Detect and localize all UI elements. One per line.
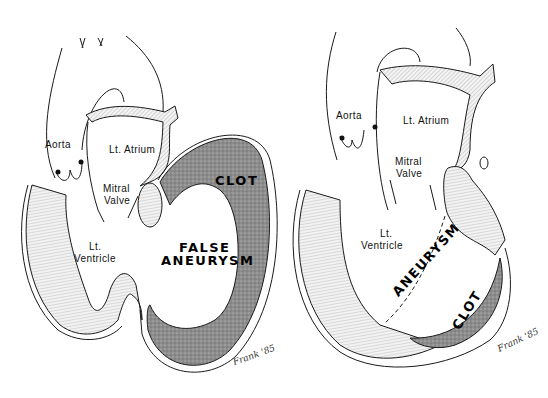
heart-aneurysm-diagram: Aorta Lt. Atrium Mitral Valve Lt. Ventri… [0,0,548,398]
label-left-atrium-left: Lt. Atrium [109,144,155,156]
label-lt-left: Lt. [89,241,101,253]
label-ventricle-left: Ventricle [74,253,116,265]
label-mitral-left: Mitral [103,183,130,195]
label-aorta-left: Aorta [45,139,71,151]
right-panel [293,28,510,367]
label-false-aneurysm-2: ANEURYSM [161,254,254,269]
label-ventricle-right: Ventricle [361,240,403,252]
label-valve-left: Valve [104,195,130,207]
label-aorta-right: Aorta [336,110,362,122]
label-valve-right: Valve [396,168,422,180]
left-panel [22,36,278,372]
label-lt-right: Lt. [380,228,392,240]
label-left-atrium-right: Lt. Atrium [403,115,449,127]
diagram-drawing [0,0,548,398]
label-mitral-right: Mitral [395,156,422,168]
label-clot-left: CLOT [215,174,258,189]
